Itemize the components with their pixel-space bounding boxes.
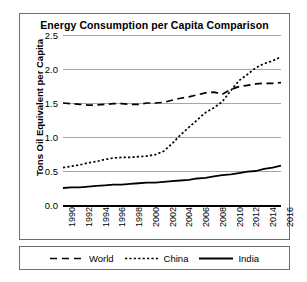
legend-label-world: World: [89, 253, 114, 264]
x-tick-label: 2014: [268, 207, 278, 227]
y-tick-label: 1.0: [45, 132, 58, 143]
x-tick-label: 2004: [184, 207, 194, 227]
plot-area: 2.52.01.51.00.50.0: [63, 35, 281, 205]
legend-swatch-world: [50, 254, 84, 263]
legend-swatch-india: [199, 254, 233, 263]
y-axis-title: Tons Oil Equivalent per Capita: [34, 28, 45, 188]
y-tick-label: 2.0: [45, 64, 58, 75]
series-line-world: [63, 83, 281, 105]
legend-item-india[interactable]: India: [199, 253, 259, 264]
x-tick-label: 1992: [84, 207, 94, 227]
legend-label-china: China: [164, 253, 189, 264]
x-tick-label: 1998: [134, 207, 144, 227]
x-tick-label: 1996: [117, 207, 127, 227]
y-tick-label: 2.5: [45, 30, 58, 41]
series-line-india: [63, 166, 281, 188]
legend-swatch-china: [125, 254, 159, 263]
series-line-china: [63, 57, 281, 168]
x-tick-label: 2010: [235, 207, 245, 227]
x-tick-label: 1994: [101, 207, 111, 227]
legend-item-world[interactable]: World: [50, 253, 114, 264]
series-lines: [63, 35, 281, 205]
x-tick-label: 1990: [67, 207, 77, 227]
legend-label-india: India: [238, 253, 259, 264]
legend-item-china[interactable]: China: [125, 253, 189, 264]
chart-container: Energy Consumption per Capita Comparison…: [19, 13, 290, 240]
y-tick-label: 1.5: [45, 98, 58, 109]
chart-title: Energy Consumption per Capita Comparison: [20, 19, 289, 31]
x-tick-label: 2006: [201, 207, 211, 227]
x-tick-label: 2008: [218, 207, 228, 227]
x-tick-label: 2000: [151, 207, 161, 227]
x-tick-label: 2002: [168, 207, 178, 227]
x-tick-label: 2012: [251, 207, 261, 227]
y-tick-label: 0.5: [45, 166, 58, 177]
chart-legend: World China India: [19, 246, 290, 270]
x-tick-label: 2016: [285, 207, 295, 227]
y-tick-label: 0.0: [45, 200, 58, 211]
